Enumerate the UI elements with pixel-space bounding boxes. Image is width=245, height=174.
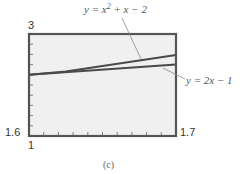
figure-caption: (c) — [103, 159, 114, 171]
parabola-label: y = x2 + x − 2 — [83, 2, 147, 15]
chart: y = x2 + x − 2 y = 2x − 1 3 1.6 1 1.7 (c… — [0, 0, 245, 174]
x-max-label: 1.7 — [180, 126, 195, 138]
x-min-label: 1.6 — [5, 126, 20, 138]
plot-area — [29, 34, 176, 136]
y-max-label: 3 — [28, 19, 34, 31]
linear-label: y = 2x − 1 — [185, 74, 233, 86]
y-min-label: 1 — [28, 139, 34, 151]
